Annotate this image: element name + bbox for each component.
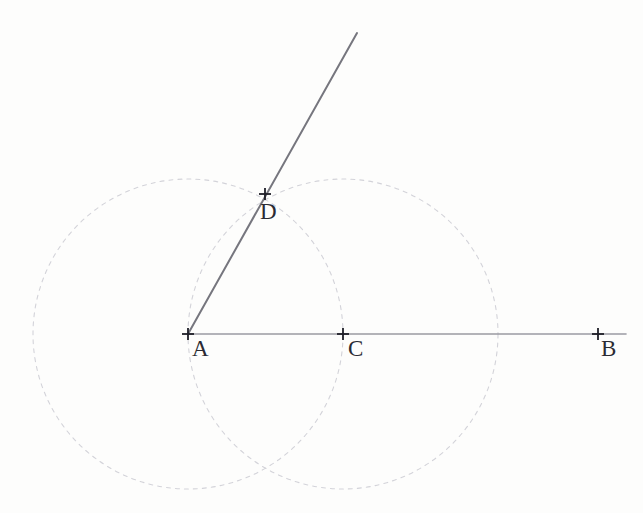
point-label-c: C — [348, 337, 364, 360]
ray-segment-ad — [188, 33, 357, 334]
point-label-b: B — [601, 337, 617, 360]
geometry-figure — [0, 0, 643, 513]
geometry-diagram-canvas: A C B D — [0, 0, 643, 513]
point-label-d: D — [260, 200, 277, 223]
point-label-a: A — [192, 337, 209, 360]
